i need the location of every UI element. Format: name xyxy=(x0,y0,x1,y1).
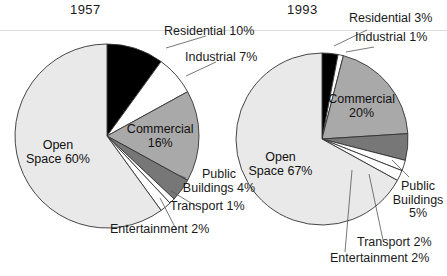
public-buildings-label-line2: Buildings 4% xyxy=(183,181,255,195)
callout-residential-1957: Residential 10% xyxy=(164,25,254,39)
callout-transport-1957: Transport 1% xyxy=(170,200,245,214)
slice-label-commercial-1993: Commercial 20% xyxy=(328,92,395,120)
callout-residential-1993: Residential 3% xyxy=(349,12,432,26)
public-buildings-label-line2: Buildings xyxy=(393,193,444,207)
open-space-label-line2: Space 60% xyxy=(26,152,90,166)
figure-canvas: 1957 1993 Open Space 60% Commercial 16% … xyxy=(0,0,447,276)
commercial-label-line2: 16% xyxy=(148,136,173,150)
callout-public-buildings-1957: Public Buildings 4% xyxy=(176,168,262,195)
callout-entertainment-1993: Entertainment 2% xyxy=(330,252,429,266)
commercial-label-line1: Commercial xyxy=(127,122,194,136)
open-space-label-line1: Open xyxy=(43,138,74,152)
callout-industrial-1957: Industrial 7% xyxy=(185,51,257,65)
slice-label-commercial-1957: Commercial 16% xyxy=(127,122,194,150)
callout-entertainment-1957: Entertainment 2% xyxy=(110,223,209,237)
open-space-label-line1: Open xyxy=(265,150,296,164)
leader-industrial-1993 xyxy=(346,47,374,52)
slice-label-open-space-1957: Open Space 60% xyxy=(26,138,90,166)
callout-public-buildings-1993: Public Buildings 5% xyxy=(390,180,446,221)
public-buildings-label-line1: Public xyxy=(202,167,236,181)
commercial-label-line2: 20% xyxy=(349,106,374,120)
pie-chart-1993 xyxy=(236,53,408,225)
callout-industrial-1993: Industrial 1% xyxy=(355,31,427,45)
callout-transport-1993: Transport 2% xyxy=(357,236,432,250)
commercial-label-line1: Commercial xyxy=(328,92,395,106)
public-buildings-label-line3: 5% xyxy=(409,206,427,220)
public-buildings-label-line1: Public xyxy=(401,179,435,193)
